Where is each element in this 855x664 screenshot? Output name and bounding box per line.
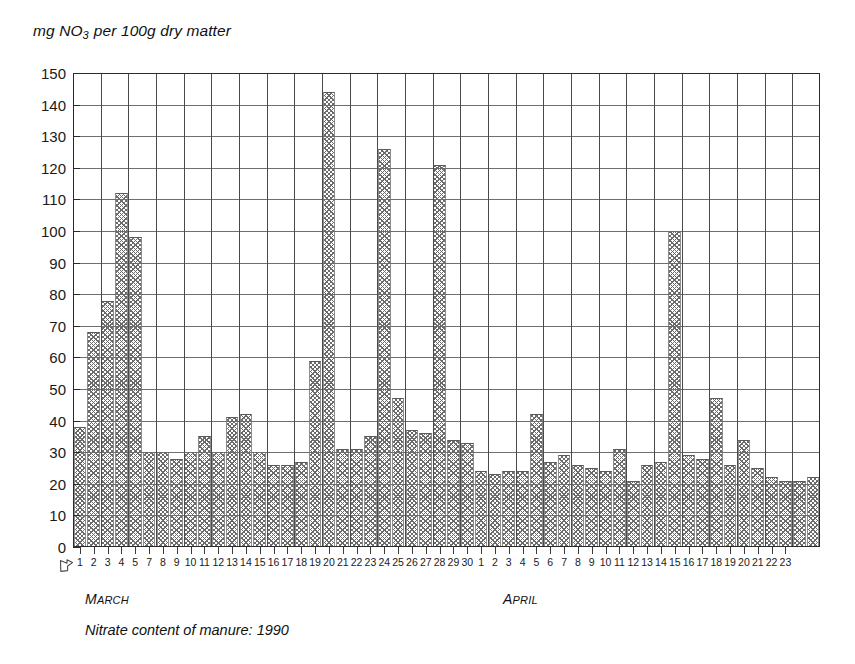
x-axis-tick-mark — [121, 547, 122, 554]
y-axis-tick-mark — [73, 199, 80, 200]
bar — [724, 465, 737, 547]
x-axis-tick-label: 21 — [337, 556, 349, 568]
bar — [765, 477, 778, 547]
bar — [461, 443, 474, 547]
x-axis-tick-mark — [301, 547, 302, 554]
x-axis-tick-mark — [163, 547, 164, 554]
x-axis-tick-label: 12 — [212, 556, 224, 568]
bar — [475, 471, 488, 547]
y-axis-title-suffix: per 100g dry matter — [94, 22, 231, 39]
x-axis-tick-label: 15 — [669, 556, 681, 568]
bar — [641, 465, 654, 547]
y-axis-tick-mark — [73, 421, 80, 422]
x-axis-tick-label: 9 — [589, 556, 595, 568]
x-axis-tick-mark — [730, 547, 731, 554]
y-axis-tick-mark — [73, 105, 80, 106]
x-axis-tick-label: 30 — [461, 556, 473, 568]
month-label-april: APRIL — [503, 591, 538, 607]
y-axis-title: mg NO3per 100g dry matter — [33, 22, 231, 41]
month-label-april-rest: PRIL — [513, 594, 538, 606]
x-axis-tick-mark — [315, 547, 316, 554]
bar — [751, 468, 764, 547]
x-axis-tick-label: 7 — [561, 556, 567, 568]
bar — [184, 452, 197, 547]
y-axis-tick-mark — [73, 294, 80, 295]
x-axis-tick-mark — [384, 547, 385, 554]
bar — [433, 165, 446, 547]
bar — [447, 440, 460, 547]
month-label-march-rest: ARCH — [97, 594, 129, 606]
bar — [378, 149, 391, 547]
bar — [516, 471, 529, 547]
x-axis-tick-mark — [772, 547, 773, 554]
x-axis-tick-mark — [744, 547, 745, 554]
bar — [129, 237, 142, 547]
x-axis-tick-mark — [287, 547, 288, 554]
x-axis-tick-mark — [398, 547, 399, 554]
x-axis-tick-label: 5 — [132, 556, 138, 568]
x-axis-tick-mark — [509, 547, 510, 554]
bar — [101, 301, 114, 547]
bar — [502, 471, 515, 547]
bar — [489, 474, 502, 547]
y-axis-tick-label: 80 — [26, 286, 66, 303]
x-axis-tick-label: 24 — [378, 556, 390, 568]
x-axis-tick-label: 18 — [295, 556, 307, 568]
y-axis-tick-mark — [73, 73, 80, 74]
x-axis-tick-mark — [260, 547, 261, 554]
bar — [613, 449, 626, 547]
x-axis-tick-label: 26 — [406, 556, 418, 568]
y-axis-tick-mark — [73, 389, 80, 390]
bar — [807, 477, 820, 547]
x-axis-tick-mark — [412, 547, 413, 554]
x-axis-tick-mark — [661, 547, 662, 554]
x-axis-tick-label: 13 — [641, 556, 653, 568]
month-label-march: MARCH — [85, 591, 129, 607]
bar — [710, 398, 723, 547]
x-axis-tick-mark — [523, 547, 524, 554]
bar — [558, 455, 571, 547]
x-axis-tick-label: 8 — [160, 556, 166, 568]
month-label-march-initial: M — [85, 591, 97, 607]
y-axis-tick-mark — [73, 452, 80, 453]
x-axis-tick-mark — [149, 547, 150, 554]
x-axis-tick-mark — [758, 547, 759, 554]
x-axis-tick-mark — [716, 547, 717, 554]
bar — [530, 414, 543, 547]
x-axis-tick-label: 14 — [240, 556, 252, 568]
x-axis-tick-label: 23 — [365, 556, 377, 568]
x-axis-tick-label: 19 — [309, 556, 321, 568]
bar — [253, 452, 266, 547]
bar — [336, 449, 349, 547]
bar — [74, 427, 87, 547]
x-axis-tick-mark — [633, 547, 634, 554]
x-axis-tick-label: 22 — [766, 556, 778, 568]
y-axis-tick-label: 90 — [26, 254, 66, 271]
y-axis-tick-label: 50 — [26, 381, 66, 398]
x-axis-tick-mark — [232, 547, 233, 554]
x-axis-tick-label: 17 — [282, 556, 294, 568]
x-axis-tick-mark — [274, 547, 275, 554]
bar — [655, 462, 668, 547]
x-axis-tick-label: 19 — [724, 556, 736, 568]
bar — [419, 433, 432, 547]
start-of-series-marker-icon — [58, 558, 78, 574]
y-axis-tick-label: 30 — [26, 444, 66, 461]
y-axis-tick-label: 70 — [26, 317, 66, 334]
x-axis-tick-mark — [440, 547, 441, 554]
x-axis-tick-mark — [675, 547, 676, 554]
x-axis-tick-label: 9 — [174, 556, 180, 568]
bar — [392, 398, 405, 547]
x-axis-tick-mark — [467, 547, 468, 554]
x-axis-tick-mark — [495, 547, 496, 554]
bar — [157, 452, 170, 547]
x-axis-tick-mark — [204, 547, 205, 554]
bar — [295, 462, 308, 547]
x-axis-tick-label: 21 — [752, 556, 764, 568]
bar — [585, 468, 598, 547]
x-axis-tick-mark — [606, 547, 607, 554]
figure-caption: Nitrate content of manure: 1990 — [85, 622, 289, 638]
bar — [364, 436, 377, 547]
y-axis-tick-mark — [73, 515, 80, 516]
x-axis-tick-label: 18 — [710, 556, 722, 568]
